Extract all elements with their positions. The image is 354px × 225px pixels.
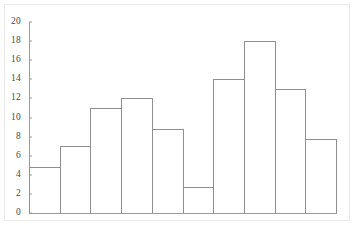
bar xyxy=(213,79,245,213)
bar xyxy=(244,41,276,213)
y-axis-tick-mark xyxy=(29,155,32,156)
bar xyxy=(60,146,92,213)
y-axis-tick-mark xyxy=(29,213,32,214)
bar xyxy=(29,167,61,213)
y-axis-tick-label: 4 xyxy=(16,170,21,180)
x-axis-line xyxy=(29,213,337,214)
y-axis-tick-mark xyxy=(29,193,32,194)
y-axis-tick-mark xyxy=(29,22,32,23)
y-axis-tick-mark xyxy=(29,41,32,42)
bar-series xyxy=(29,22,337,213)
bar xyxy=(121,98,153,213)
y-axis-tick-label: 18 xyxy=(11,36,21,46)
y-axis-tick-mark xyxy=(29,117,32,118)
y-axis-tick-label: 16 xyxy=(11,55,21,65)
bar xyxy=(152,129,184,213)
y-axis-tick-label: 10 xyxy=(11,113,21,123)
y-axis-tick-mark xyxy=(29,79,32,80)
y-axis-tick-mark xyxy=(29,136,32,137)
y-axis-tick-mark xyxy=(29,60,32,61)
y-axis-tick-label: 8 xyxy=(16,132,21,142)
bar xyxy=(183,187,215,213)
y-axis-tick-label: 14 xyxy=(11,75,21,85)
y-axis-tick-mark xyxy=(29,98,32,99)
y-axis-tick-label: 20 xyxy=(11,17,21,27)
y-axis-tick-mark xyxy=(29,174,32,175)
bar-chart-figure: 02468101214161820 xyxy=(0,0,354,225)
y-axis-tick-label: 0 xyxy=(16,208,21,218)
y-axis-tick-labels: 02468101214161820 xyxy=(0,22,26,213)
bar xyxy=(275,89,307,213)
bar xyxy=(305,139,337,213)
y-axis-tick-label: 6 xyxy=(16,151,21,161)
bar xyxy=(90,108,122,213)
y-axis-tick-label: 12 xyxy=(11,94,21,104)
y-axis-tick-label: 2 xyxy=(16,189,21,199)
